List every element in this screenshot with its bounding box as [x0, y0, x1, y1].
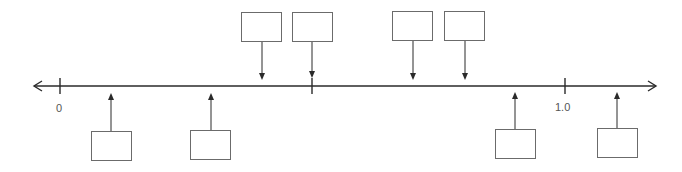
arrow-down-icon — [259, 73, 265, 80]
answer-box-below-3[interactable] — [495, 129, 536, 159]
answer-box-below-1[interactable] — [91, 131, 132, 161]
tick-label-one: 1.0 — [555, 101, 570, 113]
arrow-up-icon — [208, 93, 214, 100]
answer-box-below-4[interactable] — [597, 128, 638, 158]
arrow-up-icon — [108, 93, 114, 100]
arrow-up-icon — [512, 92, 518, 99]
arrow-down-icon — [410, 73, 416, 80]
arrow-down-icon — [462, 73, 468, 80]
answer-box-above-1[interactable] — [241, 12, 282, 42]
answer-box-above-2[interactable] — [292, 12, 333, 42]
arrow-down-icon — [309, 71, 315, 78]
answer-box-below-2[interactable] — [190, 130, 231, 160]
answer-box-above-3[interactable] — [392, 11, 433, 41]
arrow-up-icon — [614, 92, 620, 99]
answer-box-above-4[interactable] — [444, 11, 485, 41]
tick-label-zero: 0 — [56, 102, 62, 114]
number-line-diagram: 0 1.0 — [0, 0, 682, 172]
